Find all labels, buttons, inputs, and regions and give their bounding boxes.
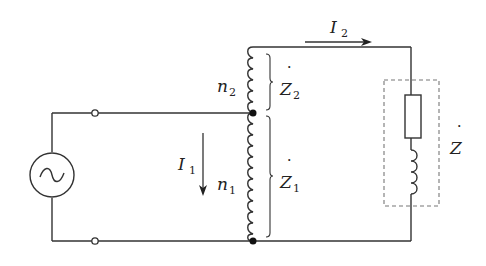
svg-text:2: 2	[293, 89, 300, 102]
winding-n1	[248, 113, 253, 241]
svg-text:n: n	[217, 76, 228, 96]
svg-text:1: 1	[293, 182, 300, 195]
svg-text:Z: Z	[279, 79, 293, 99]
load-inductor	[411, 150, 417, 194]
svg-text:Z: Z	[449, 138, 463, 158]
svg-text:2: 2	[229, 86, 236, 99]
label-z1: ˙ Z 1	[279, 156, 300, 195]
label-z2: ˙ Z 2	[279, 63, 300, 102]
ac-source	[30, 153, 74, 197]
svg-text:n: n	[217, 174, 228, 194]
svg-text:1: 1	[189, 164, 196, 177]
load-resistor	[405, 95, 421, 138]
winding-n2	[248, 47, 253, 113]
bottom-junction-dot	[250, 238, 257, 245]
svg-text:I: I	[329, 17, 337, 37]
brace-z1	[266, 116, 273, 237]
label-i2: I 2	[329, 17, 348, 40]
label-n2: n 2	[217, 76, 236, 99]
label-z-load: ˙ Z	[449, 122, 464, 158]
svg-text:1: 1	[229, 184, 236, 197]
circuit-diagram: I 2 I 1 n 2 n 1 ˙ Z 2 ˙ Z 1 ˙ Z	[0, 0, 486, 266]
terminal-top	[92, 110, 98, 116]
svg-text:I: I	[177, 154, 185, 174]
svg-text:Z: Z	[279, 172, 293, 192]
label-n1: n 1	[217, 174, 236, 197]
tap-junction-dot	[250, 110, 257, 117]
brace-z2	[266, 54, 273, 110]
terminal-bottom	[92, 238, 98, 244]
label-i1: I 1	[177, 154, 196, 177]
svg-text:2: 2	[341, 27, 348, 40]
